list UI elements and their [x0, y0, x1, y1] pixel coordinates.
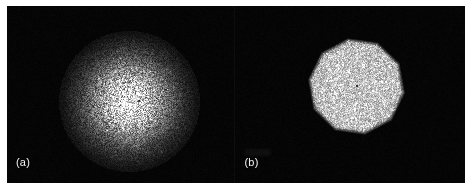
panel-a-label: (a): [16, 156, 30, 168]
panel-row: (a) (b): [7, 6, 465, 183]
panel-a: (a): [7, 6, 234, 183]
figure-container: (a) (b): [0, 0, 471, 189]
panel-b-image: [235, 6, 466, 183]
panel-a-center-dot: [138, 100, 140, 102]
panel-b-center-dot: [356, 85, 358, 87]
panel-a-image: [7, 6, 234, 183]
panel-b-label: (b): [245, 156, 259, 168]
panel-b: (b): [235, 6, 466, 183]
scan-artifact-smudge: [245, 149, 271, 156]
